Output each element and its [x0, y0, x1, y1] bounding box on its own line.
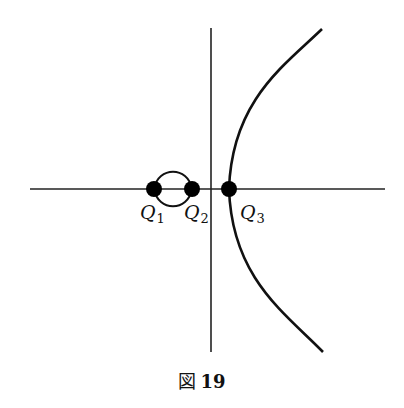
- unbounded-branch: [229, 29, 323, 352]
- caption-prefix: 図: [178, 371, 196, 392]
- label-q2: Q2: [184, 203, 209, 225]
- figure-caption: 図19: [0, 367, 404, 393]
- point-q1: [146, 181, 162, 197]
- caption-number: 19: [200, 371, 225, 392]
- point-q3: [221, 181, 237, 197]
- label-q3: Q3: [240, 203, 265, 225]
- label-q1: Q1: [140, 203, 165, 225]
- point-q2: [184, 181, 200, 197]
